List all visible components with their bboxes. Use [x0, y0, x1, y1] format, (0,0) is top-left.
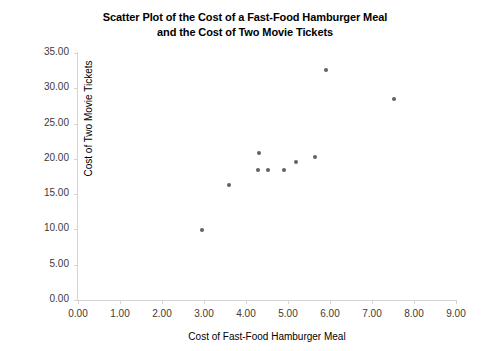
- data-point: [227, 183, 231, 187]
- x-tick-mark: [414, 300, 415, 304]
- x-tick: 8.00: [414, 300, 415, 301]
- data-point: [294, 160, 298, 164]
- y-tick: 20.00: [78, 159, 79, 160]
- data-point: [392, 97, 396, 101]
- x-tick-mark: [204, 300, 205, 304]
- x-tick: 9.00: [456, 300, 457, 301]
- x-tick-mark: [456, 300, 457, 304]
- y-tick-mark: [74, 159, 78, 160]
- x-tick-mark: [288, 300, 289, 304]
- x-tick-mark: [120, 300, 121, 304]
- x-tick-mark: [162, 300, 163, 304]
- data-point: [282, 168, 286, 172]
- y-tick-label: 10.00: [9, 222, 69, 233]
- scatter-chart: Scatter Plot of the Cost of a Fast-Food …: [0, 0, 487, 351]
- data-point: [200, 228, 204, 232]
- y-tick-label: 35.00: [9, 46, 69, 57]
- y-tick: 30.00: [78, 88, 79, 89]
- x-tick: 0.00: [78, 300, 79, 301]
- data-point: [324, 68, 328, 72]
- y-tick-label: 15.00: [9, 187, 69, 198]
- y-tick-mark: [74, 194, 78, 195]
- x-tick: 3.00: [204, 300, 205, 301]
- y-tick: 25.00: [78, 124, 79, 125]
- data-point: [256, 168, 260, 172]
- y-tick-label: 0.00: [9, 293, 69, 304]
- y-tick: 5.00: [78, 265, 79, 266]
- x-axis-title: Cost of Fast-Food Hamburger Meal: [78, 331, 456, 342]
- y-axis-title: Cost of Two Movie Tickets: [83, 49, 94, 189]
- y-tick: 10.00: [78, 229, 79, 230]
- x-tick-mark: [330, 300, 331, 304]
- chart-title: Scatter Plot of the Cost of a Fast-Food …: [60, 10, 430, 40]
- x-tick: 2.00: [162, 300, 163, 301]
- x-tick: 6.00: [330, 300, 331, 301]
- x-tick: 7.00: [372, 300, 373, 301]
- data-point: [257, 151, 261, 155]
- y-tick-label: 25.00: [9, 117, 69, 128]
- x-tick-mark: [246, 300, 247, 304]
- y-tick: 35.00: [78, 53, 79, 54]
- y-tick-label: 5.00: [9, 258, 69, 269]
- x-tick-label: 9.00: [426, 308, 486, 319]
- x-tick-mark: [78, 300, 79, 304]
- x-tick: 4.00: [246, 300, 247, 301]
- x-tick: 5.00: [288, 300, 289, 301]
- chart-title-line-1: Scatter Plot of the Cost of a Fast-Food …: [60, 10, 430, 25]
- x-axis-line: [77, 300, 457, 301]
- y-tick-mark: [74, 88, 78, 89]
- y-tick-mark: [74, 229, 78, 230]
- y-tick-mark: [74, 265, 78, 266]
- y-tick: 15.00: [78, 194, 79, 195]
- chart-title-line-2: and the Cost of Two Movie Tickets: [60, 25, 430, 40]
- plot-area: 0.005.0010.0015.0020.0025.0030.0035.00 0…: [78, 53, 456, 300]
- x-tick: 1.00: [120, 300, 121, 301]
- y-tick-label: 30.00: [9, 81, 69, 92]
- y-tick-mark: [74, 53, 78, 54]
- data-point: [266, 168, 270, 172]
- x-tick-mark: [372, 300, 373, 304]
- y-tick-label: 20.00: [9, 152, 69, 163]
- y-tick-mark: [74, 124, 78, 125]
- data-point: [313, 155, 317, 159]
